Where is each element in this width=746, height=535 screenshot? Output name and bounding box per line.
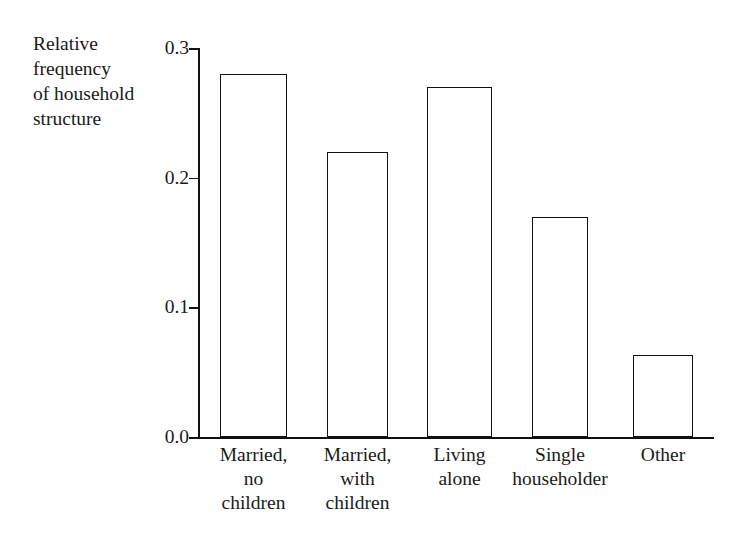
- bar: [532, 217, 588, 437]
- y-axis-tick-label: 0.3: [147, 38, 189, 58]
- x-axis-tick-label: Other: [583, 443, 743, 467]
- bar: [220, 74, 287, 437]
- bar: [633, 355, 693, 437]
- bar-chart-figure: Relative frequency of household structur…: [0, 0, 746, 535]
- bar: [327, 152, 388, 437]
- y-axis-tick-label: 0.2: [147, 168, 189, 188]
- y-axis-tick-mark: [189, 437, 198, 439]
- bar: [427, 87, 492, 437]
- x-axis-line: [198, 437, 714, 439]
- y-axis-tick-mark: [189, 48, 198, 50]
- y-axis-tick-mark: [189, 178, 198, 180]
- plot-area: 0.00.10.20.3 Married, no childrenMarried…: [0, 0, 746, 535]
- y-axis-line: [198, 48, 200, 438]
- y-axis-tick-label: 0.1: [147, 298, 189, 318]
- y-axis-tick-mark: [189, 307, 198, 309]
